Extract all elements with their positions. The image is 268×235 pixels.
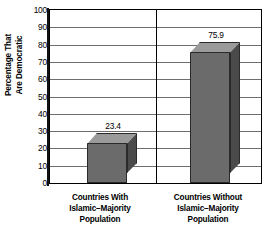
bar-front-face xyxy=(190,52,230,183)
y-axis-tick-label: 30 xyxy=(38,127,47,135)
category-divider xyxy=(156,10,157,183)
category-label-line: Population xyxy=(44,214,156,225)
category-label-line: Countries Without xyxy=(150,192,266,203)
x-axis-category-label: Countries With Islamic–Majority Populati… xyxy=(44,192,156,226)
y-axis-title-line-1: Percentage That xyxy=(4,1,15,129)
y-axis-tick-label: 100 xyxy=(34,6,47,14)
y-axis-tick-label: 80 xyxy=(38,41,47,49)
y-axis-tick-label: 20 xyxy=(38,144,47,152)
x-axis-category-label: Countries Without Islamic–Majority Popul… xyxy=(150,192,266,226)
bar-side-face xyxy=(230,42,240,173)
category-label-line: Population xyxy=(150,214,266,225)
bar xyxy=(87,10,137,183)
category-label-line: Countries With xyxy=(44,192,156,203)
category-label-line: Islamic–Majority xyxy=(150,203,266,214)
y-axis-tick-label: 40 xyxy=(38,110,47,118)
y-axis-tick-label: 70 xyxy=(38,58,47,66)
y-axis-tick-labels: 0102030405060708090100 xyxy=(20,6,47,186)
bar-chart: Percentage That Are Democratic 010203040… xyxy=(0,0,268,235)
y-axis-tick-label: 10 xyxy=(38,162,47,170)
category-label-line: Islamic–Majority xyxy=(44,203,156,214)
y-axis-tick-label: 50 xyxy=(38,93,47,101)
bar-front-face xyxy=(87,143,127,183)
y-axis-tick-label: 60 xyxy=(38,75,47,83)
bar-value-label: 23.4 xyxy=(88,122,138,131)
bar-value-label: 75.9 xyxy=(191,31,241,40)
y-axis-tick-label: 90 xyxy=(38,23,47,31)
